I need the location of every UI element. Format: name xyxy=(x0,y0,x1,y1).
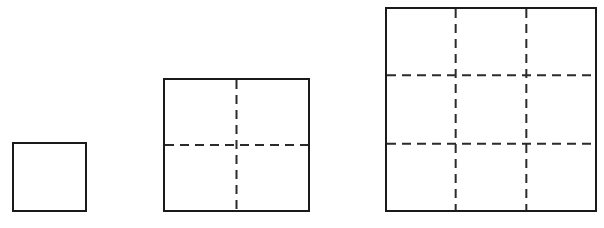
square-1-group xyxy=(13,143,86,211)
square-2-group xyxy=(164,79,309,211)
square-3-group xyxy=(386,8,596,211)
squares-diagram xyxy=(0,0,604,228)
square-3-outline xyxy=(386,8,596,211)
square-1-outline xyxy=(13,143,86,211)
figure-canvas xyxy=(0,0,604,228)
